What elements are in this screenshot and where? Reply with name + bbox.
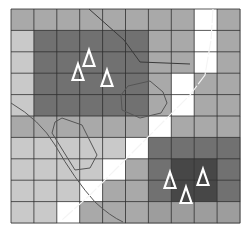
grid-cell (11, 73, 34, 95)
grid-cell (34, 30, 57, 52)
grid-cell (57, 9, 80, 31)
grid-cell (194, 30, 217, 52)
grid-cell (194, 202, 217, 224)
grid-cell (171, 73, 194, 95)
grid-cell (34, 95, 57, 117)
grid-cell (57, 95, 80, 117)
grid-cell (217, 52, 240, 74)
grid-cell (103, 116, 126, 138)
grid-cell (103, 95, 126, 117)
grid-cell (171, 9, 194, 31)
grid-cell (103, 9, 126, 31)
grid-cell (171, 202, 194, 224)
grid-cell (80, 9, 103, 31)
grid-cell (80, 137, 103, 159)
grid-cell (171, 30, 194, 52)
grid-cell (11, 9, 34, 31)
grid-cell (171, 137, 194, 159)
grid-cell (148, 137, 171, 159)
grid-cell (126, 30, 149, 52)
grid-cell (80, 202, 103, 224)
grid-cell (80, 180, 103, 202)
grid-map (0, 0, 251, 235)
grid-cell (217, 30, 240, 52)
grid-cell (103, 73, 126, 95)
grid-cell (34, 159, 57, 181)
grid-cell (148, 180, 171, 202)
grid-cell (11, 52, 34, 74)
grid-cell (34, 202, 57, 224)
grid-cell (126, 52, 149, 74)
grid-cell (11, 159, 34, 181)
grid-cell (217, 95, 240, 117)
grid-cell (57, 73, 80, 95)
grid-cell (171, 159, 194, 181)
grid-cell (80, 159, 103, 181)
grid-cell (80, 95, 103, 117)
grid-cell (217, 9, 240, 31)
grid-cell (217, 159, 240, 181)
grid-cell (126, 116, 149, 138)
grid-cell (217, 116, 240, 138)
grid-cell (126, 159, 149, 181)
grid-cell (194, 95, 217, 117)
grid-cell (11, 137, 34, 159)
grid-cell (103, 202, 126, 224)
grid-cell (11, 180, 34, 202)
grid-cell (194, 116, 217, 138)
grid-cell (171, 52, 194, 74)
grid-cell (11, 116, 34, 138)
grid-cell (57, 202, 80, 224)
grid-cell (148, 9, 171, 31)
grid-cell (11, 202, 34, 224)
grid-cell (148, 73, 171, 95)
grid-cell (126, 202, 149, 224)
grid-cell (148, 30, 171, 52)
grid-cell (57, 137, 80, 159)
grid-cell (126, 9, 149, 31)
grid-cell (57, 180, 80, 202)
grid-cell (217, 73, 240, 95)
grid-cell (34, 73, 57, 95)
raster-map-frame (0, 0, 251, 235)
grid-cell (171, 116, 194, 138)
grid-cell (217, 180, 240, 202)
grid-cell (34, 9, 57, 31)
grid-cell (34, 52, 57, 74)
grid-cell (148, 202, 171, 224)
grid-cell (194, 73, 217, 95)
grid-cell (148, 116, 171, 138)
grid-cell (217, 202, 240, 224)
grid-cell (34, 137, 57, 159)
grid-cell (57, 30, 80, 52)
grid-cell (103, 30, 126, 52)
grid-cell (217, 137, 240, 159)
grid-cell (103, 137, 126, 159)
grid-cell (126, 180, 149, 202)
grid-cell (103, 180, 126, 202)
grid-cell (194, 137, 217, 159)
grid-cell (80, 30, 103, 52)
grid-cell (194, 9, 217, 31)
grid-cell (171, 95, 194, 117)
grid-cell (34, 180, 57, 202)
grid-cell (11, 30, 34, 52)
